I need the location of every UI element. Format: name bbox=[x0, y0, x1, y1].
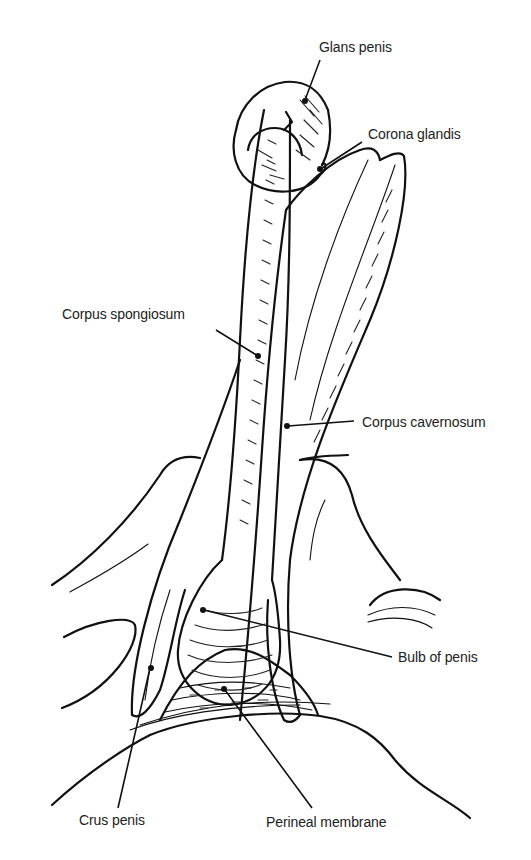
label-perineal-membrane: Perineal membrane bbox=[266, 814, 386, 830]
label-crus-penis: Crus penis bbox=[79, 812, 145, 828]
surrounding-tissue bbox=[52, 455, 470, 818]
glans-penis-shape bbox=[234, 82, 330, 192]
label-corona-glandis: Corona glandis bbox=[368, 126, 461, 142]
corpus-spongiosum-shape bbox=[178, 110, 290, 705]
anatomy-figure: Glans penis Corona glandis Corpus spongi… bbox=[0, 0, 531, 860]
label-glans-penis: Glans penis bbox=[319, 39, 392, 55]
label-corpus-cavernosum: Corpus cavernosum bbox=[362, 414, 486, 430]
label-bulb-of-penis: Bulb of penis bbox=[398, 649, 478, 665]
corpus-cavernosum-shape bbox=[240, 148, 405, 722]
label-corpus-spongiosum: Corpus spongiosum bbox=[62, 306, 185, 322]
